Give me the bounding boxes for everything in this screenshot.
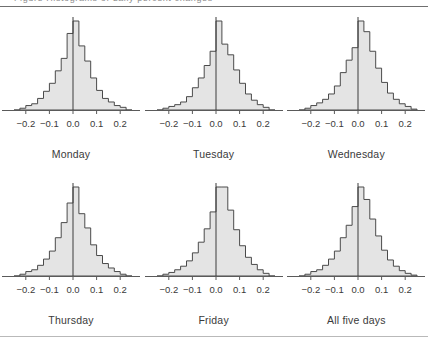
histogram-plot-thursday: −0.2−0.10.00.10.2 [0,175,142,305]
x-axis-tick-label: −0.1 [40,284,59,295]
x-axis-tick-label: −0.2 [16,118,35,129]
x-axis-tick-label: 0.1 [233,118,246,129]
x-axis-tick-label: −0.1 [183,284,202,295]
x-axis-tick-label: −0.2 [16,284,35,295]
x-axis-tick-label: 0.2 [114,118,127,129]
x-axis-tick-label: −0.1 [40,118,59,129]
x-axis-tick-label: 0.0 [66,284,79,295]
footer-rule [0,336,428,337]
x-axis-tick-label: 0.1 [90,118,103,129]
x-axis-tick-label: 0.1 [375,118,388,129]
x-axis-tick-label: 0.2 [256,118,269,129]
histogram-panel: −0.2−0.10.00.10.2Monday [0,9,142,175]
histogram-panel: −0.2−0.10.00.10.2Wednesday [285,9,427,175]
histogram-panel: −0.2−0.10.00.10.2Friday [143,175,285,341]
histogram-panel: −0.2−0.10.00.10.2Thursday [0,175,142,341]
histogram-plot-tuesday: −0.2−0.10.00.10.2 [143,9,285,139]
panel-caption: All five days [285,314,427,326]
header-rule [0,6,428,7]
histogram-plot-all-five-days: −0.2−0.10.00.10.2 [285,175,427,305]
panel-caption: Monday [0,148,142,160]
panel-caption: Thursday [0,314,142,326]
clipped-header-label: Figure Histograms of daily percent chang… [14,0,213,3]
x-axis-tick-label: 0.2 [114,284,127,295]
x-axis-tick-label: −0.1 [183,118,202,129]
panel-caption: Wednesday [285,148,427,160]
x-axis-tick-label: −0.1 [325,118,344,129]
x-axis-tick-label: −0.2 [159,118,178,129]
x-axis-tick-label: 0.2 [399,284,412,295]
x-axis-tick-label: 0.1 [233,284,246,295]
histogram-panel: −0.2−0.10.00.10.2All five days [285,175,427,341]
x-axis-tick-label: −0.2 [302,118,321,129]
x-axis-tick-label: 0.0 [352,118,365,129]
x-axis-tick-label: −0.1 [325,284,344,295]
x-axis-tick-label: 0.2 [256,284,269,295]
x-axis-tick-label: 0.1 [90,284,103,295]
histogram-panel-grid: −0.2−0.10.00.10.2Monday−0.2−0.10.00.10.2… [0,9,428,341]
histogram-plot-wednesday: −0.2−0.10.00.10.2 [285,9,427,139]
x-axis-tick-label: 0.0 [209,284,222,295]
histogram-plot-monday: −0.2−0.10.00.10.2 [0,9,142,139]
x-axis-tick-label: −0.2 [159,284,178,295]
x-axis-tick-label: 0.1 [375,284,388,295]
histogram-panel: −0.2−0.10.00.10.2Tuesday [143,9,285,175]
x-axis-tick-label: −0.2 [302,284,321,295]
x-axis-tick-label: 0.0 [352,284,365,295]
x-axis-tick-label: 0.0 [209,118,222,129]
histogram-plot-friday: −0.2−0.10.00.10.2 [143,175,285,305]
x-axis-tick-label: 0.2 [399,118,412,129]
x-axis-tick-label: 0.0 [66,118,79,129]
panel-caption: Tuesday [143,148,285,160]
panel-caption: Friday [143,314,285,326]
